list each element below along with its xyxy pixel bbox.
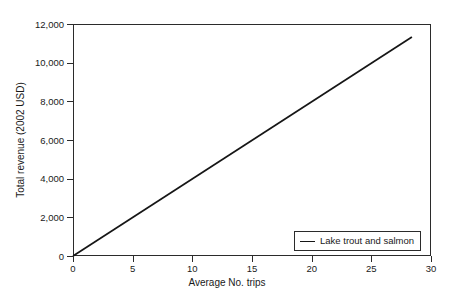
y-tick-4000 xyxy=(67,179,73,180)
y-tick-12000 xyxy=(67,24,73,25)
x-tick-label-20: 20 xyxy=(292,264,332,274)
chart-figure: 0 2,000 4,000 6,000 8,000 10,000 12,000 … xyxy=(0,0,454,302)
x-tick-label-0: 0 xyxy=(53,264,93,274)
x-tick-10 xyxy=(192,256,193,262)
x-axis-title: Average No. trips xyxy=(0,277,454,289)
legend-label-lake-trout-and-salmon: Lake trout and salmon xyxy=(320,236,414,246)
x-tick-label-15: 15 xyxy=(232,264,272,274)
x-tick-20 xyxy=(312,256,313,262)
x-tick-label-10: 10 xyxy=(172,264,212,274)
y-axis-title-wrap: Total revenue (2002 USD) xyxy=(13,24,29,256)
x-tick-label-5: 5 xyxy=(113,264,153,274)
legend-line-icon xyxy=(300,241,315,242)
x-tick-label-25: 25 xyxy=(351,264,391,274)
x-tick-label-30: 30 xyxy=(411,264,451,274)
x-tick-25 xyxy=(371,256,372,262)
y-tick-2000 xyxy=(67,217,73,218)
x-tick-0 xyxy=(73,256,74,262)
chart-legend: Lake trout and salmon xyxy=(294,231,421,251)
series-layer xyxy=(73,24,431,256)
series-line-lake-trout-and-salmon xyxy=(73,37,412,256)
x-tick-30 xyxy=(431,256,432,262)
y-tick-10000 xyxy=(67,63,73,64)
x-tick-15 xyxy=(252,256,253,262)
x-tick-5 xyxy=(133,256,134,262)
y-tick-6000 xyxy=(67,140,73,141)
y-tick-8000 xyxy=(67,101,73,102)
y-axis-title: Total revenue (2002 USD) xyxy=(15,82,27,198)
